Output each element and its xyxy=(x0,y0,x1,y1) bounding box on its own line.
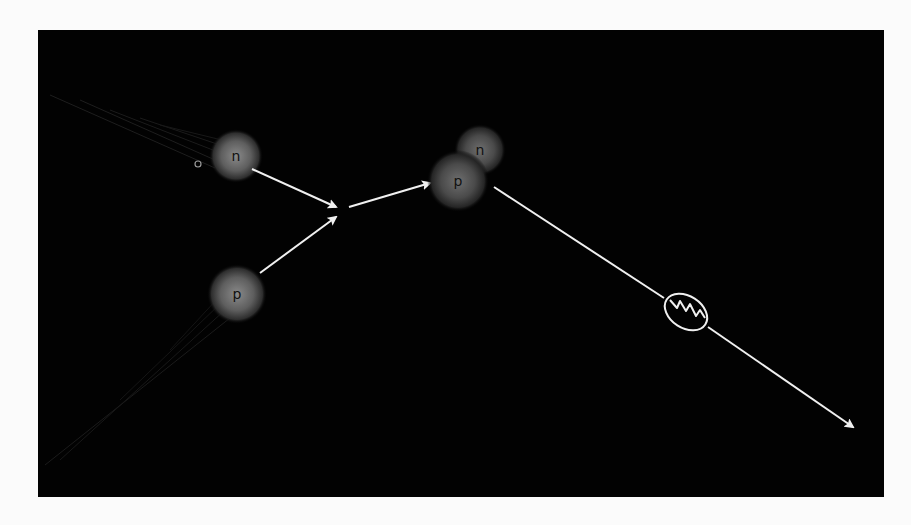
incoming-neutron: n xyxy=(209,129,263,183)
gamma-arrow xyxy=(708,327,853,427)
gamma-photon-icon xyxy=(658,286,714,338)
bound-proton-label: p xyxy=(454,173,463,189)
neutron-motion-trail xyxy=(50,95,222,168)
bound-proton: p xyxy=(427,150,489,212)
incoming-proton-label: p xyxy=(233,286,242,302)
deuteron-formation-diagram: n p n p xyxy=(0,0,911,525)
incoming-proton: p xyxy=(207,264,267,324)
small-circle-marker xyxy=(195,161,201,167)
incoming-neutron-label: n xyxy=(232,148,241,164)
fusion-arrow xyxy=(349,183,430,207)
proton-motion-trail xyxy=(45,298,230,465)
bound-neutron-label: n xyxy=(476,142,485,158)
proton-arrow xyxy=(260,217,336,273)
neutron-arrow xyxy=(252,169,336,207)
deuteron: n p xyxy=(427,124,506,212)
gamma-path-line xyxy=(494,187,664,298)
